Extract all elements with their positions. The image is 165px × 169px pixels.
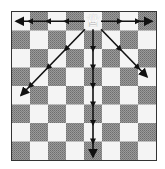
- board-square: [12, 142, 31, 161]
- board-square: [66, 105, 85, 124]
- board-square: [30, 86, 49, 105]
- board-square: [66, 142, 85, 161]
- chess-board: ♕: [11, 11, 157, 161]
- board-square: [12, 123, 31, 142]
- board-square: [12, 105, 31, 124]
- board-square: [66, 49, 85, 68]
- board-square: [120, 105, 139, 124]
- board-square: [48, 31, 67, 50]
- board-square: [66, 68, 85, 87]
- board-square: [102, 68, 121, 87]
- board-square: [12, 31, 31, 50]
- board-square: [138, 31, 156, 50]
- board-square: [30, 123, 49, 142]
- board-square: [30, 142, 49, 161]
- board-square: [48, 105, 67, 124]
- board-square: [102, 86, 121, 105]
- board-square: [138, 105, 156, 124]
- board-square: [66, 123, 85, 142]
- board-square: [120, 68, 139, 87]
- board-square: [138, 123, 156, 142]
- board-square: [102, 123, 121, 142]
- board-square: [30, 31, 49, 50]
- board-square: [102, 142, 121, 161]
- board-graphic: ♕: [12, 12, 156, 160]
- board-square: [66, 86, 85, 105]
- board-square: [48, 68, 67, 87]
- board-square: [48, 123, 67, 142]
- queen-icon: ♕: [85, 12, 101, 31]
- board-square: [30, 49, 49, 68]
- board-square: [138, 49, 156, 68]
- board-square: [120, 142, 139, 161]
- board-square: [102, 105, 121, 124]
- board-square: [120, 123, 139, 142]
- board-square: [30, 105, 49, 124]
- board-square: [48, 86, 67, 105]
- board-square: [138, 142, 156, 161]
- board-square: [138, 86, 156, 105]
- board-square: [102, 49, 121, 68]
- board-square: [12, 68, 31, 87]
- board-square: [48, 142, 67, 161]
- board-square: [120, 86, 139, 105]
- board-square: [12, 49, 31, 68]
- board-square: [120, 31, 139, 50]
